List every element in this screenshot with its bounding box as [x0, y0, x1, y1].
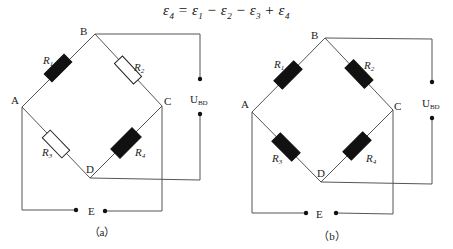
bridge-circuits: B A C D E UBD R1 R2 R3 R4 （a） B A C D E …	[0, 0, 453, 249]
wire-c-source	[336, 110, 393, 214]
terminal-ubd-bottom-b	[430, 116, 434, 120]
output-label-ubd-a: UBD	[190, 93, 208, 107]
terminal-e-right-b	[334, 211, 338, 215]
resistor-label-r2-b: R2	[363, 59, 375, 73]
caption-a: （a）	[89, 226, 116, 238]
terminal-ubd-top-a	[198, 77, 202, 81]
resistor-label-r3-b: R3	[271, 152, 283, 166]
resistor-label-r2-a: R2	[133, 61, 145, 75]
node-label-e-a: E	[88, 205, 95, 217]
wire-b-output	[95, 34, 200, 79]
node-label-b-b: B	[311, 29, 318, 41]
wire-b-output	[325, 38, 432, 82]
resistor-label-r4-a: R4	[134, 146, 146, 160]
caption-b: （b）	[318, 230, 346, 242]
node-label-c-b: C	[394, 100, 401, 112]
node-label-a-b: A	[241, 98, 249, 110]
wire-c-source	[105, 106, 162, 211]
terminal-e-left-a	[74, 208, 78, 212]
node-label-d-a: D	[86, 163, 94, 175]
wire-d-output	[90, 114, 200, 180]
resistor-label-r4-b: R4	[365, 152, 377, 166]
terminal-ubd-bottom-a	[198, 112, 202, 116]
terminal-e-left-b	[304, 211, 308, 215]
node-label-a-a: A	[11, 94, 19, 106]
node-label-b-a: B	[80, 25, 87, 37]
terminal-ubd-top-b	[430, 80, 434, 84]
resistor-label-r1-b: R1	[273, 58, 284, 72]
terminal-e-right-a	[103, 209, 107, 213]
node-label-e-b: E	[316, 208, 323, 220]
output-label-ubd-b: UBD	[422, 97, 440, 111]
node-label-c-a: C	[164, 95, 171, 107]
node-label-d-b: D	[317, 167, 325, 179]
resistor-label-r3-a: R3	[41, 146, 53, 160]
resistor-label-r1-a: R1	[42, 54, 53, 68]
wire-d-output	[321, 118, 432, 184]
